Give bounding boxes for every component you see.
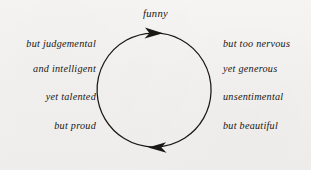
left-phrase-column: but judgemental and intelligent yet tale… [0, 0, 96, 170]
bottom-arrowhead-icon [148, 142, 167, 153]
cycle-circle-path [97, 33, 211, 147]
circle-arrow-group [97, 28, 211, 153]
right-phrase-column: but too nervous yet generous unsentiment… [223, 0, 311, 170]
left-phrase-1: but judgemental [26, 39, 96, 49]
left-phrase-2: and intelligent [33, 64, 96, 74]
right-phrase-2: yet generous [223, 64, 277, 74]
right-phrase-4: but beautiful [223, 121, 278, 131]
right-phrase-3: unsentimental [223, 92, 283, 102]
left-phrase-3: yet talented [46, 92, 96, 102]
diagram-canvas: funny but judgemental and intelligent ye… [0, 0, 311, 170]
right-phrase-1: but too nervous [223, 39, 290, 49]
left-phrase-4: but proud [54, 121, 96, 131]
